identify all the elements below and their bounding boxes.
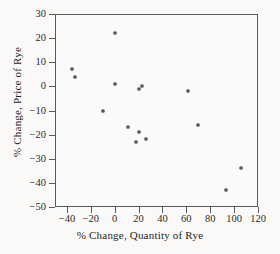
plot-area xyxy=(55,14,258,207)
data-point xyxy=(197,123,200,126)
data-point xyxy=(240,167,243,170)
y-axis-tick xyxy=(49,159,55,160)
data-point xyxy=(141,85,144,88)
y-axis-tick xyxy=(49,86,55,87)
y-axis-tick xyxy=(49,62,55,63)
data-point xyxy=(70,68,73,71)
data-point xyxy=(126,126,129,129)
y-axis-tick xyxy=(49,38,55,39)
data-point xyxy=(113,32,116,35)
x-axis-tick-label: 120 xyxy=(238,213,278,224)
x-axis-label: % Change, Quantity of Rye xyxy=(0,229,280,241)
data-point xyxy=(224,189,227,192)
y-axis-tick xyxy=(49,183,55,184)
y-axis-tick xyxy=(49,135,55,136)
y-axis-label: % Change, Price of Rye xyxy=(11,12,23,192)
data-point xyxy=(135,140,138,143)
data-point xyxy=(144,138,147,141)
y-axis-tick xyxy=(49,14,55,15)
data-point xyxy=(186,90,189,93)
data-point xyxy=(137,131,140,134)
data-point xyxy=(113,82,116,85)
data-point xyxy=(74,75,77,78)
y-axis-tick xyxy=(49,207,55,208)
scatter-plot-figure: 3020100−10−20−30−40−50 −40−2002040608010… xyxy=(0,0,280,254)
data-point xyxy=(137,87,140,90)
data-point xyxy=(101,109,104,112)
y-axis-tick xyxy=(49,111,55,112)
y-axis-tick-label: −50 xyxy=(6,202,46,212)
